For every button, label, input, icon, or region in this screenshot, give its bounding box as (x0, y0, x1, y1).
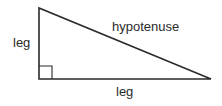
right-triangle-diagram: leg hypotenuse leg (0, 0, 222, 106)
bottom-leg-label: leg (116, 84, 133, 99)
right-angle-marker (39, 66, 52, 79)
left-leg-label: leg (13, 35, 30, 50)
hypotenuse-label: hypotenuse (112, 19, 179, 34)
